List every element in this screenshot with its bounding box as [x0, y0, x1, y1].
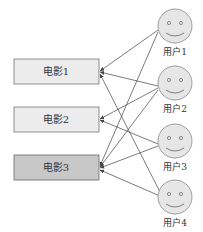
edge-u3-m2 [100, 120, 158, 144]
user-node-2: 用户2 [158, 66, 192, 114]
smiley-face-icon [158, 9, 192, 43]
movie-label-1: 电影1 [43, 65, 69, 77]
user-label-3: 用户3 [163, 161, 187, 172]
smiley-face-icon [158, 124, 192, 158]
user-label-2: 用户2 [163, 103, 187, 114]
movie-user-diagram: 电影1 电影2 电影3 用户1 用户2 用户 [0, 0, 203, 232]
movie-node-3: 电影3 [14, 155, 99, 180]
user-node-1: 用户1 [158, 9, 192, 57]
edge-u2-m3 [100, 90, 158, 167]
movie-node-1: 电影1 [14, 59, 99, 84]
user-label-1: 用户1 [163, 46, 187, 57]
user-label-4: 用户4 [163, 217, 187, 228]
edge-u2-m2 [100, 88, 158, 119]
user-node-4: 用户4 [158, 180, 192, 228]
edges [100, 30, 160, 196]
edge-u3-m3 [100, 146, 158, 168]
edge-u1-m3 [100, 32, 158, 166]
movie-node-2: 电影2 [14, 107, 99, 132]
edge-u2-m1 [100, 72, 158, 86]
movie-label-2: 电影2 [43, 113, 69, 125]
movie-label-3: 电影3 [43, 161, 69, 173]
user-node-3: 用户3 [158, 124, 192, 172]
smiley-face-icon [158, 66, 192, 100]
smiley-face-icon [158, 180, 192, 214]
edge-u1-m1 [100, 30, 158, 71]
